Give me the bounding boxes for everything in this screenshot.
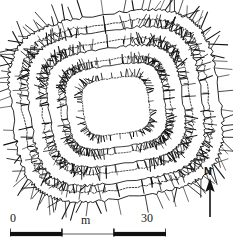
hachure-tick (97, 167, 100, 173)
hachure-tick (103, 149, 104, 160)
hachure-tick (157, 71, 165, 72)
scale-bar-end-label: 30 (141, 212, 153, 224)
site-plan-figure: 0 m 30 N (0, 0, 233, 248)
hachure-tick (161, 156, 162, 165)
hachure-tick (93, 170, 94, 175)
hachure-tick (8, 41, 23, 43)
hachure-tick (74, 91, 82, 95)
hachure-tick (17, 21, 24, 39)
hachure-tick (150, 159, 151, 171)
hachure-tick (70, 45, 71, 56)
scale-bar-unit-label: m (81, 214, 90, 226)
hachure-tick (136, 144, 137, 151)
hachure-tick (201, 146, 205, 159)
hachure-tick (218, 75, 230, 77)
hachure-tick (160, 0, 166, 9)
hachure-tick (103, 136, 104, 142)
hachure-tick (169, 120, 173, 121)
hachure-tick (97, 76, 98, 81)
scale-bar-graphic (10, 228, 166, 238)
hachure-tick (145, 18, 149, 26)
scale-bar-segment (10, 232, 62, 236)
hachure-tick (46, 33, 48, 46)
hachure-tick (169, 128, 172, 129)
hachure-tick (40, 102, 47, 104)
hachure-tick (149, 101, 154, 102)
hachure-tick (105, 202, 107, 212)
hachure-tick (42, 123, 52, 124)
hachure-tick (110, 58, 111, 65)
hachure-tick (148, 125, 153, 126)
north-arrow-icon (196, 178, 224, 218)
hachure-tick (124, 0, 127, 12)
hachure-tick (127, 69, 128, 76)
hachure-tick (62, 4, 65, 20)
hachure-tick (87, 63, 88, 69)
hachure-tick (106, 135, 107, 139)
hachure-tick (0, 106, 11, 108)
hachure-tick (34, 164, 41, 166)
hachure-tick (52, 199, 54, 213)
hachure-tick (168, 174, 174, 188)
hachure-tick (147, 89, 152, 90)
hachure-tick (217, 159, 228, 163)
hachure-tick (101, 73, 102, 80)
north-arrow-label: N (204, 166, 212, 177)
hachure-tick (76, 29, 77, 38)
hachure-tick (64, 127, 71, 128)
hachure-tick (132, 0, 134, 10)
hachure-tick (223, 128, 233, 132)
hachure-tick (56, 87, 65, 88)
hachure-tick (194, 159, 203, 160)
hachure-tick (158, 141, 159, 145)
hachure-tick (178, 75, 186, 76)
hachure-tick (206, 31, 221, 40)
hachure-tick (137, 146, 139, 151)
hachure-tick (140, 144, 141, 153)
hachure-tick (121, 71, 122, 76)
hachure-tick (19, 127, 33, 130)
scale-bar-segments (10, 229, 166, 237)
hachure-tick (219, 150, 233, 152)
hachure-tick (137, 68, 140, 76)
hachure-tick (205, 117, 216, 118)
hachure-tick (186, 30, 187, 35)
hachure-tick (60, 104, 64, 105)
hachure-tick (68, 7, 73, 19)
hachure-tick (76, 117, 84, 119)
hachure-tick (203, 118, 210, 120)
hachure-tick (107, 34, 108, 47)
hachure-tick (78, 111, 84, 112)
hachure-tick (75, 87, 83, 90)
hachure-tick (33, 20, 39, 32)
hachure-tick (212, 61, 227, 62)
hachure-tick (110, 135, 111, 141)
hachure-tick (224, 113, 234, 118)
hachure-tick (147, 87, 154, 88)
hachure-tick (164, 191, 169, 200)
hachure-tick (58, 125, 69, 126)
hachure-tick (35, 12, 48, 27)
hachure-tick (120, 15, 124, 29)
hachure-tick (145, 195, 148, 212)
hachure-tick (12, 31, 20, 45)
hachure-tick (74, 97, 82, 98)
hachure-tick (14, 155, 20, 163)
hachure-tick (154, 1, 161, 10)
hachure-tick (142, 0, 144, 9)
hachure-tick (89, 168, 91, 176)
hachure-tick (130, 132, 132, 139)
hachure-tick (134, 53, 135, 63)
hachure-tick (31, 161, 37, 163)
hachure-tick (221, 110, 233, 112)
hachure-tick (224, 124, 233, 126)
hachure-tick (0, 89, 8, 94)
hachure-tick (170, 0, 171, 11)
scale-bar-segment (62, 233, 114, 235)
hachure-tick (130, 33, 131, 45)
hachure-tick (166, 109, 176, 110)
hachure-tick (78, 84, 83, 89)
hachure-tick (122, 54, 123, 63)
hachure-tick (183, 187, 188, 202)
hachure-tick (77, 0, 82, 17)
